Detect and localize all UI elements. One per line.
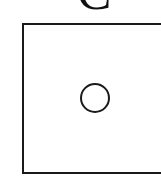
circle-marker-icon: [80, 83, 110, 113]
panel-label-c: C: [74, 0, 114, 14]
